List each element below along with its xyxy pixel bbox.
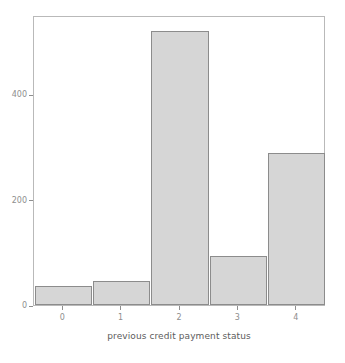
- bar-0: [35, 286, 92, 305]
- x-tick-mark: [295, 306, 296, 310]
- x-tick-label: 2: [167, 313, 191, 322]
- bar-4: [268, 153, 325, 305]
- x-tick-label: 3: [225, 313, 249, 322]
- x-tick-mark: [179, 306, 180, 310]
- x-tick-label: 1: [109, 313, 133, 322]
- bar-2: [151, 31, 208, 305]
- x-axis-title: previous credit payment status: [33, 331, 325, 341]
- y-tick-mark: [29, 200, 33, 201]
- x-tick-mark: [62, 306, 63, 310]
- x-tick-mark: [237, 306, 238, 310]
- y-tick-label: 400: [12, 89, 27, 100]
- y-tick-label: 0: [22, 300, 27, 311]
- x-tick-label: 4: [284, 313, 308, 322]
- y-tick-label: 200: [12, 195, 27, 206]
- bar-1: [93, 281, 150, 305]
- bars-layer: [34, 17, 324, 305]
- y-tick-mark: [29, 95, 33, 96]
- bar-chart-figure: 0200400 01234 previous credit payment st…: [0, 0, 345, 363]
- x-tick-mark: [120, 306, 121, 310]
- plot-area: [33, 16, 325, 306]
- y-axis: 0200400: [0, 16, 33, 307]
- x-tick-label: 0: [50, 313, 74, 322]
- bar-3: [210, 256, 267, 305]
